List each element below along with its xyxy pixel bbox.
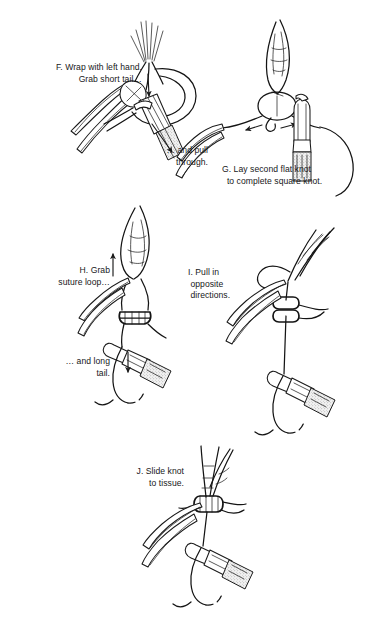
square-knot xyxy=(119,312,151,324)
needle-holder-right xyxy=(267,371,335,417)
suture-loop xyxy=(121,206,149,279)
caption-f-main: F. Wrap with left hand. Grab short tail… xyxy=(14,62,142,85)
caption-f-pull: … and pull through. xyxy=(140,145,208,168)
upper-strands xyxy=(201,446,233,497)
caption-i-main: I. Pull in opposite directions. xyxy=(188,267,256,302)
caption-j-main: J. Slide knot to tissue. xyxy=(112,466,184,489)
caption-h-main: H. Grab suture loop… xyxy=(34,265,110,288)
second-flat-loop xyxy=(266,20,289,94)
tissue-wound-edges xyxy=(131,21,163,62)
knot-strands xyxy=(122,324,166,347)
suture-strand xyxy=(284,282,288,374)
panel-f-illustration xyxy=(71,21,196,160)
opened-loop-strands xyxy=(288,228,334,281)
panel-i-illustration xyxy=(226,228,335,435)
caption-h-tail: … and long tail. xyxy=(34,356,110,379)
caption-g-main: G. Lay second flat knot to complete squa… xyxy=(222,164,366,187)
tension-arrow-left xyxy=(246,125,262,130)
tightened-knot xyxy=(273,297,328,322)
surgical-knot-figure xyxy=(0,0,367,627)
needle-holder-left xyxy=(71,81,146,153)
needle-holder-right xyxy=(185,543,253,589)
suture-strand xyxy=(203,512,207,546)
illustration-page: F. Wrap with left hand. Grab short tail…… xyxy=(0,0,367,627)
